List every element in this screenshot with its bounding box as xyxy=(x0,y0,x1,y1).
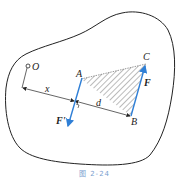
figure-caption: 图 2-24 xyxy=(0,168,189,178)
label-b: B xyxy=(131,116,137,127)
origin-point-icon xyxy=(26,64,30,68)
label-a: A xyxy=(75,68,83,79)
label-c: C xyxy=(143,51,150,62)
label-x: x xyxy=(44,83,50,94)
label-o: O xyxy=(32,61,39,72)
label-f-prime: F' xyxy=(55,115,66,126)
rigid-body-outline xyxy=(6,12,175,165)
label-f: F xyxy=(143,77,151,88)
right-angle-mark xyxy=(76,104,79,108)
couple-moment-diagram: O A C B F F' x d xyxy=(0,0,189,182)
label-d: d xyxy=(96,97,102,108)
